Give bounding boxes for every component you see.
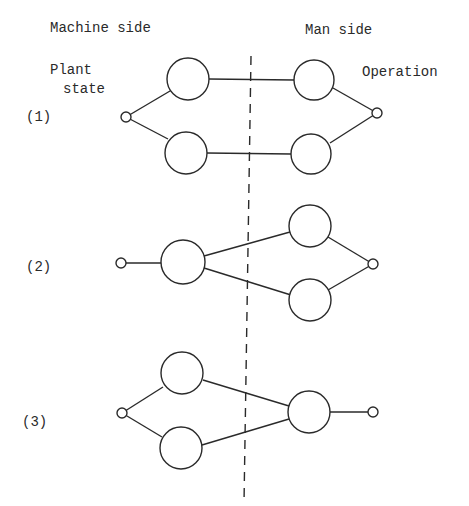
operation-node: [372, 108, 382, 118]
diagram-canvas: Machine side Man side Plant state Operat…: [0, 0, 469, 506]
config-3-network: [117, 352, 378, 469]
man-node-lower: [289, 279, 331, 321]
diagram-graphics: [0, 0, 469, 506]
operation-node: [368, 407, 378, 417]
operation-node: [368, 259, 378, 269]
plant-state-node: [116, 258, 126, 268]
plant-state-node: [117, 408, 127, 418]
man-node-lower: [291, 134, 331, 174]
man-node-upper: [294, 60, 334, 100]
machine-node: [161, 240, 205, 284]
machine-man-divider: [244, 56, 251, 503]
plant-state-node: [121, 112, 131, 122]
man-node-upper: [289, 205, 331, 247]
machine-node-lower: [165, 132, 207, 174]
man-node: [288, 391, 330, 433]
machine-node-upper: [161, 352, 203, 394]
machine-node-upper: [167, 58, 209, 100]
config-1-network: [121, 58, 382, 174]
machine-node-lower: [160, 427, 202, 469]
